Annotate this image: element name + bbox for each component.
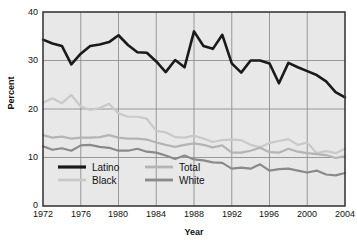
plot-area: LatinoBlackTotalWhite	[0, 0, 357, 242]
legend-label-black: Black	[92, 175, 117, 186]
legend-label-latino: Latino	[92, 162, 120, 173]
legend-label-total: Total	[179, 162, 200, 173]
dropout-rate-line-chart: Percent Year 40 30 20 10 0 1972 1976 198…	[0, 0, 357, 242]
legend-label-white: White	[179, 175, 205, 186]
